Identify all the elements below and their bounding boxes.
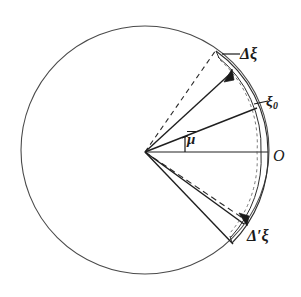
label-xi-zero: ξ0 bbox=[266, 94, 278, 111]
label-mu-bar: μ bbox=[187, 132, 195, 147]
delta-xi-arrowhead bbox=[224, 69, 234, 82]
label-delta-xi: Δξ bbox=[240, 46, 257, 62]
ray-to-delta-prime-xi bbox=[145, 152, 233, 244]
label-delta-prime-xi-text: Δ′ξ bbox=[247, 227, 269, 244]
label-origin-o: O bbox=[273, 148, 285, 164]
label-delta-xi-text: Δξ bbox=[240, 45, 257, 62]
dashed-ray-upper bbox=[145, 50, 216, 152]
label-xi-zero-base: ξ bbox=[266, 93, 273, 109]
label-origin-o-text: O bbox=[273, 147, 285, 164]
ray-lower-inner bbox=[145, 152, 244, 224]
label-delta-prime-xi: Δ′ξ bbox=[247, 228, 269, 244]
figure-container: Δξ ξ0 μ O Δ′ξ bbox=[0, 0, 301, 297]
label-xi-zero-subscript: 0 bbox=[273, 100, 278, 111]
ray-to-xi0 bbox=[145, 108, 257, 152]
label-mu-bar-text: μ bbox=[187, 132, 195, 147]
